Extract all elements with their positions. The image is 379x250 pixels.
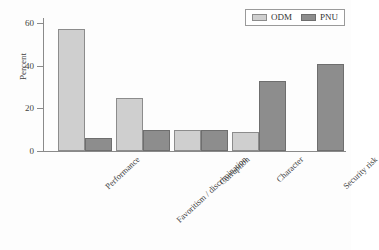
bar-character-pnu	[259, 81, 286, 151]
y-tick-label-40: 40	[10, 62, 34, 71]
bar-favoritism-odm	[116, 98, 143, 151]
bar-character-odm	[232, 132, 259, 151]
legend-label-odm: ODM	[271, 13, 292, 22]
bar-performance-pnu	[85, 138, 112, 151]
bars-layer	[44, 23, 346, 151]
y-tick-label-60: 60	[10, 19, 34, 28]
y-tick-60	[37, 23, 43, 24]
legend-label-pnu: PNU	[320, 13, 338, 22]
bar-corruption-pnu	[201, 130, 228, 151]
legend: ODM PNU	[245, 9, 345, 26]
bar-performance-odm	[58, 29, 85, 151]
x-label-security-risk: Security risk	[342, 155, 379, 191]
bar-favoritism-pnu	[143, 130, 170, 151]
bar-corruption-odm	[174, 130, 201, 151]
y-tick-0	[37, 151, 43, 152]
legend-entry-pnu: PNU	[301, 13, 338, 22]
x-axis-line	[43, 151, 346, 152]
legend-entry-odm: ODM	[252, 13, 292, 22]
legend-swatch-pnu-icon	[301, 14, 316, 21]
y-tick-label-20: 20	[10, 104, 34, 113]
bar-security-risk-pnu	[317, 64, 344, 152]
y-tick-20	[37, 108, 43, 109]
y-tick-label-0: 0	[10, 147, 34, 156]
x-label-character: Character	[275, 155, 305, 184]
x-label-performance: Performance	[104, 155, 142, 191]
y-tick-40	[37, 66, 43, 67]
legend-swatch-odm-icon	[252, 14, 267, 21]
